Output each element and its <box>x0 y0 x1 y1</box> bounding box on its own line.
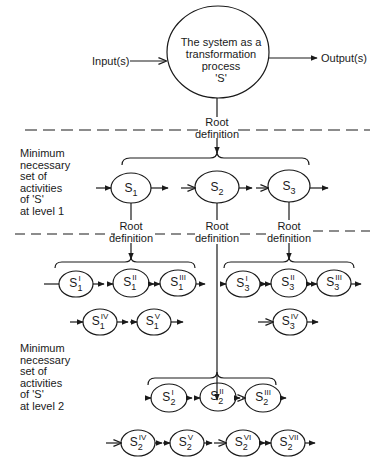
node-s1-i-label: S1I <box>69 277 84 291</box>
node-s1-ii-label: S1II <box>123 276 140 290</box>
node-sub: 2 <box>138 442 143 452</box>
node-sup: III <box>179 273 186 282</box>
node-sup: IV <box>291 312 299 321</box>
node-sub: 1 <box>154 321 159 331</box>
node-s1-label: S1 <box>124 182 137 195</box>
node-s3-iii-label: S3III <box>326 276 346 290</box>
node-sub: 3 <box>334 282 339 292</box>
node-sub: 1 <box>178 282 183 292</box>
node-s2-vi-label: S2VI <box>235 436 256 450</box>
node-base: S <box>282 314 290 328</box>
node-sup: II <box>132 273 136 282</box>
main-process-label: The system as a transformation process '… <box>181 36 262 84</box>
node-s1-iv-label: S1IV <box>92 315 113 329</box>
node-s2-ii-label: S2II <box>210 390 227 404</box>
node-base: S <box>210 180 218 194</box>
node-sup: VI <box>244 433 252 442</box>
node-sup: VII <box>289 433 299 442</box>
node-s1-iii-label: S1III <box>170 276 190 290</box>
node-s2-vii-label: S2VII <box>280 436 303 450</box>
node-base: S <box>162 390 170 404</box>
root-definition-label-s3: Root definition <box>264 220 314 244</box>
node-sub: 3 <box>290 321 295 331</box>
node-sub: 1 <box>77 283 82 293</box>
node-base: S <box>130 435 138 449</box>
node-sup: V <box>155 312 160 321</box>
node-base: S <box>210 389 218 403</box>
brace-level1 <box>122 152 309 165</box>
node-base: S <box>179 435 187 449</box>
node-base: S <box>236 276 244 290</box>
node-base: S <box>326 275 334 289</box>
node-base: S <box>123 275 131 289</box>
node-sub: 1 <box>131 282 136 292</box>
node-sup: II <box>290 273 294 282</box>
node-sub: 2 <box>243 442 248 452</box>
node-base: S <box>69 276 77 290</box>
node-s2-v-label: S2V <box>179 436 197 450</box>
node-s3-iv-label: S3IV <box>282 315 303 329</box>
node-sup: III <box>264 388 271 397</box>
node-s3-label: S3 <box>282 180 295 193</box>
output-label: Output(s) <box>321 53 367 64</box>
node-base: S <box>280 435 288 449</box>
node-base: S <box>124 181 132 195</box>
node-base: S <box>255 390 263 404</box>
node-sub: 1 <box>100 321 105 331</box>
node-sup: V <box>188 433 193 442</box>
node-sub: 1 <box>133 188 138 198</box>
brace-level2 <box>148 372 276 385</box>
node-sup: I <box>171 388 173 397</box>
node-sub: 3 <box>244 283 249 293</box>
node-s2-iv-label: S2IV <box>130 436 151 450</box>
root-definition-label-main: Root definition <box>195 117 239 140</box>
node-sup: I <box>78 274 80 283</box>
node-s3-ii-label: S3II <box>281 276 298 290</box>
node-s2-label: S2 <box>210 181 223 194</box>
node-sub: 2 <box>170 397 175 407</box>
brace-s1 <box>55 257 195 268</box>
node-base: S <box>235 435 243 449</box>
node-sub: 2 <box>288 442 293 452</box>
node-s1-v-label: S1V <box>146 315 164 329</box>
node-base: S <box>170 275 178 289</box>
node-s3-i-label: S3I <box>236 277 251 291</box>
root-definition-label-s2: Root definition <box>192 220 242 244</box>
node-sub: 2 <box>218 396 223 406</box>
brace-s3 <box>224 257 354 268</box>
node-sup: II <box>219 387 223 396</box>
node-sub: 2 <box>219 187 224 197</box>
node-sub: 3 <box>291 186 296 196</box>
node-sup: IV <box>139 433 147 442</box>
node-sup: I <box>245 274 247 283</box>
input-label: Input(s) <box>92 56 129 67</box>
node-s2-i-label: S2I <box>162 391 177 405</box>
node-sub: 3 <box>289 282 294 292</box>
level2-side-label: Minimum necessary set of activities of '… <box>20 343 70 412</box>
node-sup: IV <box>101 312 109 321</box>
level1-side-label: Minimum necessary set of activities of '… <box>20 148 70 217</box>
node-sup: III <box>335 273 342 282</box>
root-definition-label-s1: Root definition <box>106 220 156 244</box>
node-base: S <box>281 275 289 289</box>
node-s2-iii-label: S2III <box>255 391 275 405</box>
node-base: S <box>92 314 100 328</box>
node-sub: 2 <box>263 397 268 407</box>
node-base: S <box>282 179 290 193</box>
node-base: S <box>146 314 154 328</box>
node-sub: 2 <box>187 442 192 452</box>
